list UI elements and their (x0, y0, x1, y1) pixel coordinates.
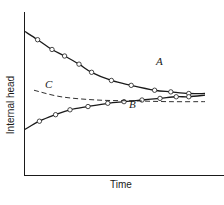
curve-label-c: C (45, 78, 52, 90)
data-point-marker (37, 119, 41, 123)
series-c-line (34, 90, 205, 101)
y-axis-label: Internal head (0, 60, 20, 150)
y-axis-label-text: Internal head (5, 76, 16, 134)
data-point-marker (86, 104, 90, 108)
data-point-marker (122, 99, 126, 103)
data-point-marker (89, 70, 93, 74)
curve-label-b: B (129, 98, 136, 110)
x-axis-label: Time (110, 179, 132, 190)
data-point-marker (158, 96, 162, 100)
data-point-marker (152, 88, 156, 92)
data-point-marker (129, 83, 133, 87)
data-point-marker (109, 78, 113, 82)
data-point-marker (77, 62, 81, 66)
data-point-marker (53, 112, 57, 116)
data-point-marker (169, 90, 173, 94)
data-point-marker (50, 47, 54, 51)
data-point-marker (187, 95, 191, 99)
curve-label-a: A (156, 55, 163, 67)
data-point-marker (174, 95, 178, 99)
data-point-marker (140, 98, 144, 102)
data-point-marker (62, 54, 66, 58)
chart-plot (0, 0, 224, 205)
data-point-marker (35, 38, 39, 42)
data-point-marker (68, 108, 72, 112)
data-point-marker (106, 101, 110, 105)
